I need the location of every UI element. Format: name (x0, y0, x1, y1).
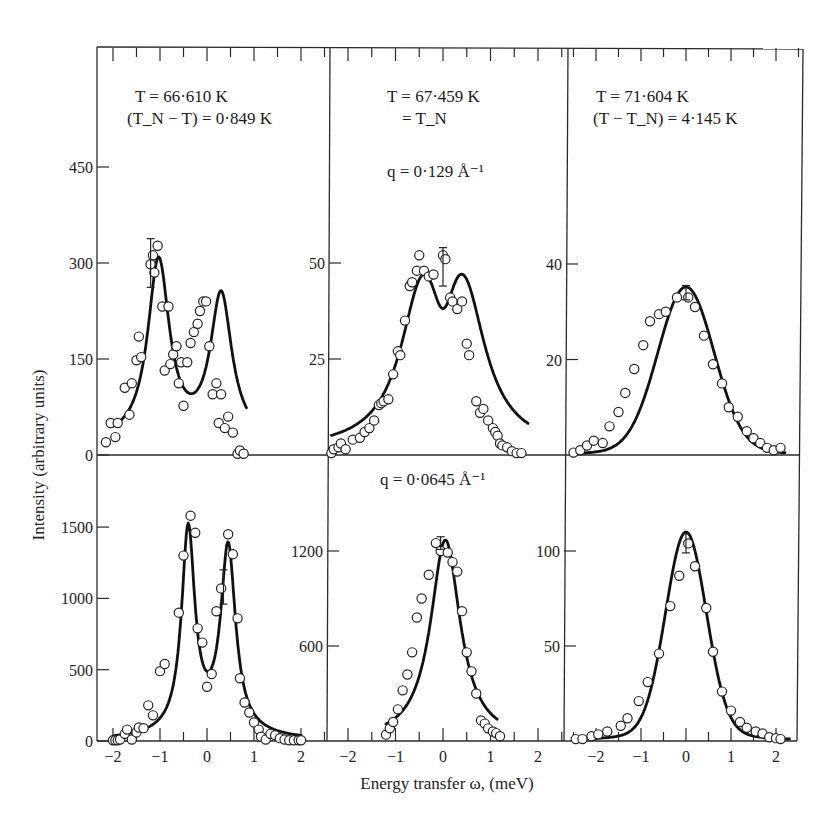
data-point (517, 448, 526, 457)
svg-text:−1: −1 (632, 748, 649, 765)
data-point (690, 302, 699, 311)
data-point (144, 701, 153, 710)
data-point (137, 352, 146, 361)
svg-text:−2: −2 (104, 748, 121, 765)
fit-curves (113, 257, 790, 739)
svg-text:100: 100 (536, 543, 560, 560)
data-point (245, 708, 254, 717)
data-point (228, 550, 237, 559)
data-point (408, 278, 417, 287)
data-point (148, 251, 157, 260)
svg-text:600: 600 (299, 638, 323, 655)
col1-delta-label: (T_N − T) = 0·849 K (127, 109, 273, 128)
data-point (467, 667, 476, 676)
data-point (699, 331, 708, 340)
data-point (621, 388, 630, 397)
data-point (717, 687, 726, 696)
data-point (393, 705, 402, 714)
data-point (201, 297, 210, 306)
data-point (424, 570, 433, 579)
data-point (198, 638, 207, 647)
data-point (666, 602, 675, 611)
data-point (186, 338, 195, 347)
data-point (239, 449, 248, 458)
col3-delta-label: (T − T_N) = 4·145 K (593, 109, 738, 128)
data-point (164, 302, 173, 311)
data-point (240, 698, 249, 707)
svg-text:1: 1 (727, 748, 735, 765)
panel-frame (97, 47, 803, 741)
svg-text:−2: −2 (587, 748, 604, 765)
data-point (396, 351, 405, 360)
svg-text:0: 0 (85, 447, 93, 464)
svg-text:500: 500 (69, 662, 93, 679)
data-point (708, 360, 717, 369)
data-point (370, 416, 379, 425)
data-point (217, 584, 226, 593)
data-point (113, 418, 122, 427)
svg-text:0: 0 (85, 733, 93, 750)
data-point (623, 714, 632, 723)
axis-ticks (97, 48, 799, 741)
data-point (684, 293, 693, 302)
data-point (702, 603, 711, 612)
data-point (594, 730, 603, 739)
fit-curve-bottom-left (113, 523, 301, 736)
col3-temp-label: T = 71·604 K (596, 87, 690, 106)
data-point (191, 528, 200, 537)
data-point (578, 735, 587, 744)
svg-text:−1: −1 (387, 748, 404, 765)
data-point (457, 607, 466, 616)
figure: 015030045025502040050010001500−2−1012600… (0, 0, 824, 817)
svg-text:50: 50 (309, 255, 325, 272)
svg-text:0: 0 (203, 748, 211, 765)
data-point (441, 255, 450, 264)
data-point (235, 674, 244, 683)
data-point (403, 670, 412, 679)
data-point (193, 319, 202, 328)
data-point (472, 689, 481, 698)
data-point (614, 407, 623, 416)
fit-curve-bottom-right (583, 532, 790, 739)
data-point (724, 403, 733, 412)
data-point (417, 594, 426, 603)
svg-text:1500: 1500 (61, 519, 93, 536)
data-point (448, 557, 457, 566)
svg-text:450: 450 (69, 159, 93, 176)
data-point (202, 682, 211, 691)
data-point (462, 339, 471, 348)
svg-text:150: 150 (69, 351, 93, 368)
data-point (408, 648, 417, 657)
data-point (172, 342, 181, 351)
col2-temp-label: T = 67·459 K (387, 87, 481, 106)
data-point (224, 530, 233, 539)
data-point (205, 342, 214, 351)
data-point (733, 412, 742, 421)
svg-text:−1: −1 (151, 748, 168, 765)
data-point (134, 332, 143, 341)
data-point (400, 316, 409, 325)
svg-text:25: 25 (309, 351, 325, 368)
data-point (123, 725, 132, 734)
data-point (296, 736, 305, 745)
data-point (228, 428, 237, 437)
data-point (479, 404, 488, 413)
data-point (472, 397, 481, 406)
data-point (389, 717, 398, 726)
data-point (384, 395, 393, 404)
x-axis-title: Energy transfer ω, (meV) (360, 774, 533, 793)
data-point (179, 401, 188, 410)
data-point (179, 551, 188, 560)
svg-text:1: 1 (250, 748, 258, 765)
fit-curve-top-left (113, 257, 247, 426)
data-point (776, 735, 785, 744)
data-point (398, 686, 407, 695)
data-point (224, 412, 233, 421)
data-point (193, 624, 202, 633)
data-point (717, 379, 726, 388)
data-point (212, 379, 221, 388)
data-point (183, 358, 192, 367)
data-point (148, 711, 157, 720)
fit-curve-top-middle (331, 274, 528, 435)
data-point (654, 649, 663, 658)
